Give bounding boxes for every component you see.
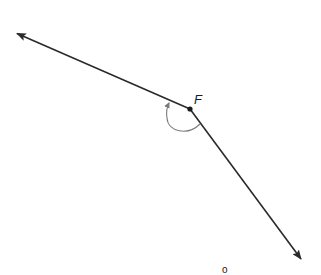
angle-diagram: F o	[0, 0, 321, 275]
right-ray	[190, 109, 301, 259]
degree-symbol: o	[222, 264, 228, 275]
left-ray	[17, 34, 190, 110]
vertex-point-f	[187, 106, 192, 111]
vertex-label: F	[194, 92, 203, 107]
